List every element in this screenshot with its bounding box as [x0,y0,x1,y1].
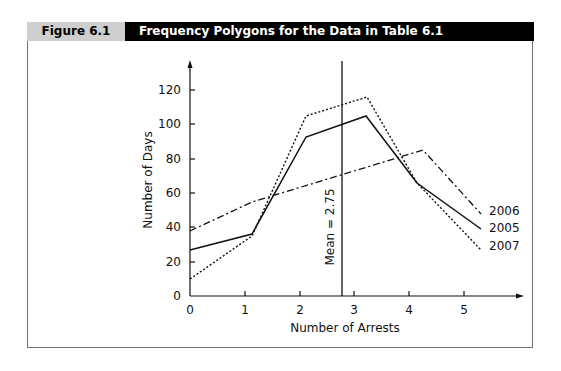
x-axis-title: Number of Arrests [290,321,400,335]
y-axis-title: Number of Days [141,131,155,228]
x-tick-label: 4 [405,303,413,317]
x-tick-label: 3 [350,303,358,317]
series-label-2005: 2005 [489,221,520,235]
y-tick-labels: 0 20 40 60 80 100 120 [158,83,181,303]
x-axis [190,291,524,299]
x-tick-label: 0 [186,303,194,317]
y-tick-label: 100 [158,117,181,131]
frequency-polygon-chart: 0 20 40 60 80 100 120 0 1 2 3 4 5 Number… [0,0,561,371]
x-tick-label: 5 [460,303,468,317]
y-axis-arrow-icon [188,60,193,68]
y-tick-label: 80 [166,152,181,166]
y-tick-label: 20 [166,255,181,269]
series-labels: 2006 2005 2007 [489,204,520,253]
y-tick-label: 60 [166,186,181,200]
x-tick-labels: 0 1 2 3 4 5 [186,303,468,317]
y-axis [188,60,196,296]
x-axis-arrow-icon [516,294,524,299]
series-label-2007: 2007 [489,239,520,253]
series-label-2006: 2006 [489,204,520,218]
y-tick-label: 120 [158,83,181,97]
y-tick-label: 0 [173,289,181,303]
x-tick-label: 2 [296,303,304,317]
y-tick-label: 40 [166,220,181,234]
mean-label: Mean = 2.75 [323,188,337,265]
x-tick-label: 1 [241,303,249,317]
